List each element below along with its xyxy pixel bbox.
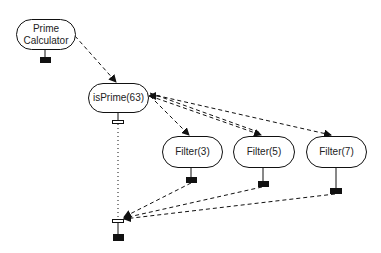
edge-calc-to-isprime — [75, 36, 116, 82]
join-terminal — [113, 234, 124, 241]
isprime-activation-bar — [113, 121, 124, 124]
filter3-terminal — [186, 177, 197, 183]
diagram-canvas: Prime Calculator isPrime(63) Filter(3) F… — [0, 0, 381, 253]
edge-isprime-to-filter5 — [150, 96, 261, 135]
node-prime-calculator[interactable]: Prime Calculator — [16, 19, 76, 50]
join-activation-bar — [113, 220, 124, 223]
edge-isprime-to-filter3 — [150, 96, 189, 135]
calc-terminal — [40, 57, 51, 63]
filter5-terminal — [258, 181, 269, 187]
node-label: isPrime(63) — [93, 92, 144, 104]
edge-filter7-to-join — [124, 194, 335, 219]
node-label: Filter(7) — [319, 146, 353, 158]
edge-filter5-to-join — [124, 187, 262, 218]
node-filter3[interactable]: Filter(3) — [162, 136, 223, 168]
node-label: Filter(5) — [247, 146, 281, 158]
node-label-line2: Calculator — [23, 35, 68, 47]
edge-isprime-to-filter7 — [150, 94, 331, 135]
node-label-line1: Prime — [23, 23, 68, 35]
node-isprime[interactable]: isPrime(63) — [88, 83, 149, 113]
filter7-terminal — [330, 188, 342, 194]
node-label: Filter(3) — [175, 146, 209, 158]
node-filter5[interactable]: Filter(5) — [233, 136, 295, 168]
node-filter7[interactable]: Filter(7) — [306, 136, 367, 168]
